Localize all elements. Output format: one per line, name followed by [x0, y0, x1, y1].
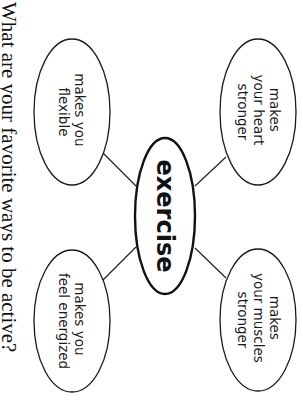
bubble-muscles-line-1: makes — [267, 296, 283, 340]
bubble-heart-line-2: your heart — [251, 75, 267, 146]
connector-muscles — [195, 248, 226, 278]
bubble-heart-line-3: stronger — [235, 84, 251, 141]
bubble-heart-line-1: makes — [267, 88, 283, 132]
connector-energized — [103, 247, 136, 280]
question-prompt: What are your favorite ways to be active… — [0, 2, 21, 352]
connector-heart — [195, 157, 226, 186]
bubble-flexible-line-1: makes you — [72, 73, 88, 146]
connector-flexible — [103, 153, 136, 186]
center-label: exercise — [151, 160, 179, 273]
bubble-energized-text: makes you feel energized — [56, 273, 88, 369]
bubble-energized-line-2: feel energized — [56, 273, 72, 369]
bubble-energized-line-1: makes you — [72, 282, 88, 355]
concept-web-diagram: exercise makes your heart stronger makes… — [0, 0, 303, 418]
bubble-flexible-line-2: flexible — [56, 88, 72, 137]
bubble-muscles-line-2: your muscles — [251, 273, 267, 363]
bubble-muscles-line-3: stronger — [235, 292, 251, 349]
